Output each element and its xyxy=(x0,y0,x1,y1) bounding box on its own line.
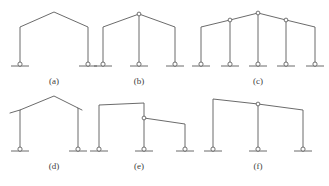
internal-hinge-icon xyxy=(284,18,288,22)
pin-support-icon xyxy=(306,62,324,66)
pin-support-icon xyxy=(176,147,194,151)
pin-support-icon xyxy=(69,147,87,151)
pin-support-icon xyxy=(249,62,267,66)
figure-container: (a)(b)(c)(d)(e)(f) xyxy=(0,0,329,186)
frame-members-c xyxy=(201,13,315,66)
pin-support-icon xyxy=(94,62,112,66)
pin-support-icon xyxy=(90,147,108,151)
pin-support-icon xyxy=(135,147,153,151)
frame-panel-f: (f) xyxy=(204,99,312,171)
support-pin-circle xyxy=(142,147,146,151)
pin-support-icon xyxy=(192,62,210,66)
frame-members-a xyxy=(20,12,88,66)
pin-support-icon xyxy=(11,147,29,151)
pin-support-icon xyxy=(277,62,295,66)
pin-support-icon xyxy=(249,147,267,151)
pin-support-icon xyxy=(204,147,222,151)
frame-panel-a: (a) xyxy=(11,12,97,86)
support-pin-circle xyxy=(97,147,101,151)
internal-hinge-icon xyxy=(142,116,146,120)
support-pin-circle xyxy=(301,147,305,151)
support-pin-circle xyxy=(137,62,141,66)
panel-caption-b: (b) xyxy=(134,76,145,86)
frame-panel-e: (e) xyxy=(90,103,194,171)
pin-support-icon xyxy=(11,62,29,66)
panel-caption-d: (d) xyxy=(49,161,60,171)
panels-group: (a)(b)(c)(d)(e)(f) xyxy=(10,11,324,171)
panel-caption-e: (e) xyxy=(134,161,144,171)
frame-members-f xyxy=(213,99,303,151)
support-pin-circle xyxy=(199,62,203,66)
pin-support-icon xyxy=(294,147,312,151)
frame-diagram-canvas: (a)(b)(c)(d)(e)(f) xyxy=(0,0,329,186)
frame-members-e xyxy=(99,103,185,151)
support-pin-circle xyxy=(313,62,317,66)
support-pin-circle xyxy=(284,62,288,66)
support-pin-circle xyxy=(183,147,187,151)
support-pin-circle xyxy=(211,147,215,151)
pin-support-icon xyxy=(166,62,184,66)
panel-caption-f: (f) xyxy=(254,161,263,171)
support-pin-circle xyxy=(173,62,177,66)
frame-panel-d: (d) xyxy=(10,96,87,171)
panel-caption-c: (c) xyxy=(253,76,263,86)
support-pin-circle xyxy=(76,147,80,151)
internal-hinge-icon xyxy=(228,18,232,22)
internal-hinge-icon xyxy=(256,102,260,106)
pin-support-icon xyxy=(130,62,148,66)
support-pin-circle xyxy=(228,62,232,66)
support-pin-circle xyxy=(18,62,22,66)
frame-members-d xyxy=(10,96,82,151)
pin-support-icon xyxy=(221,62,239,66)
frame-members-b xyxy=(103,14,175,66)
support-pin-circle xyxy=(101,62,105,66)
support-pin-circle xyxy=(18,147,22,151)
support-pin-circle xyxy=(256,62,260,66)
internal-hinge-icon xyxy=(256,11,260,15)
support-pin-circle xyxy=(256,147,260,151)
internal-hinge-icon xyxy=(137,12,141,16)
frame-panel-b: (b) xyxy=(94,12,184,86)
frame-panel-c: (c) xyxy=(192,11,324,86)
support-pin-circle xyxy=(86,62,90,66)
panel-caption-a: (a) xyxy=(49,76,59,86)
